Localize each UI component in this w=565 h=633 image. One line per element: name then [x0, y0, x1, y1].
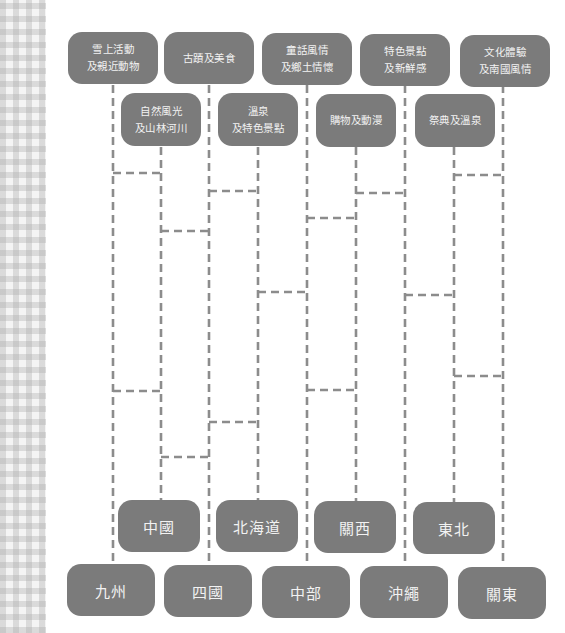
theme-box-festival-onsen: 祭典及溫泉: [415, 94, 495, 147]
region-box-chugoku: 中國: [118, 500, 200, 552]
theme-box-snow-animals: 雪上活動 及親近動物: [68, 32, 158, 84]
theme-line: 購物及動漫: [330, 112, 383, 129]
theme-line: 及新鮮感: [384, 60, 426, 77]
theme-box-nature-rivers: 自然風光 及山林河川: [121, 93, 201, 146]
region-box-chubu: 中部: [262, 566, 350, 618]
region-box-shikoku: 四國: [164, 565, 252, 617]
theme-box-shopping-anime: 購物及動漫: [316, 94, 396, 147]
region-box-kyushu: 九州: [67, 564, 155, 616]
region-box-hokkaido: 北海道: [216, 500, 298, 552]
region-box-kansai: 關西: [314, 501, 396, 553]
theme-line: 及親近動物: [87, 58, 140, 75]
theme-box-fairytale-rural: 童話風情 及鄉土情懷: [262, 33, 352, 85]
theme-box-sights-novelty: 特色景點 及新鮮感: [360, 34, 450, 86]
region-label: 中部: [290, 582, 322, 603]
region-box-kanto: 關東: [458, 567, 546, 619]
theme-line: 祭典及溫泉: [429, 112, 482, 129]
theme-line: 及特色景點: [232, 120, 285, 137]
region-box-tohoku: 東北: [413, 502, 495, 554]
theme-box-onsen-sights: 溫泉 及特色景點: [218, 93, 298, 146]
theme-line: 自然風光: [140, 103, 182, 120]
region-label: 四國: [192, 581, 224, 602]
theme-line: 及鄉土情懷: [281, 59, 334, 76]
theme-line: 溫泉: [248, 103, 269, 120]
theme-line: 童話風情: [286, 42, 328, 59]
theme-line: 特色景點: [384, 43, 426, 60]
region-label: 關東: [486, 583, 518, 604]
theme-line: 及南國風情: [479, 61, 532, 78]
theme-line: 雪上活動: [92, 41, 134, 58]
region-label: 關西: [339, 517, 371, 538]
region-label: 北海道: [233, 516, 281, 537]
theme-box-heritage-food: 古蹟及美食: [164, 32, 254, 84]
region-label: 沖繩: [388, 582, 420, 603]
region-label: 九州: [95, 580, 127, 601]
region-box-okinawa: 沖繩: [360, 566, 448, 618]
theme-line: 及山林河川: [135, 120, 188, 137]
theme-box-culture-tropical: 文化體驗 及南國風情: [460, 35, 550, 87]
theme-line: 文化體驗: [484, 44, 526, 61]
region-label: 中國: [143, 516, 175, 537]
region-label: 東北: [438, 518, 470, 539]
theme-line: 古蹟及美食: [183, 50, 236, 67]
